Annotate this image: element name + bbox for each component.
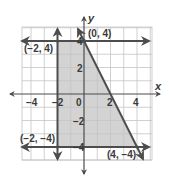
point-label-neg2-4: (−2, 4)	[24, 43, 53, 54]
y-tick-label: −2	[73, 116, 85, 127]
vertex-dot	[56, 145, 59, 148]
y-axis-label: y	[87, 12, 95, 24]
vertex-dot	[82, 39, 86, 43]
x-tick-label: 0	[76, 97, 82, 108]
vertex-dot	[56, 39, 59, 42]
y-tick-label: −4	[73, 142, 85, 153]
x-tick-label: −4	[26, 97, 38, 108]
x-tick-label: 2	[107, 97, 113, 108]
y-tick-label: 4	[77, 36, 83, 47]
x-tick-label: −2	[52, 97, 64, 108]
x-axis-label: x	[154, 80, 162, 92]
coordinate-graph: y x −4 −2 0 2 4 4 2 −2 −4 (−2, 4) (0, 4)…	[0, 0, 169, 180]
y-tick-label: 2	[77, 63, 83, 74]
point-label-neg2-neg4: (−2, −4)	[20, 133, 55, 144]
point-label-0-4: (0, 4)	[88, 28, 111, 39]
point-label-4-neg4: (4, −4)	[107, 149, 136, 160]
x-tick-label: 4	[133, 97, 139, 108]
